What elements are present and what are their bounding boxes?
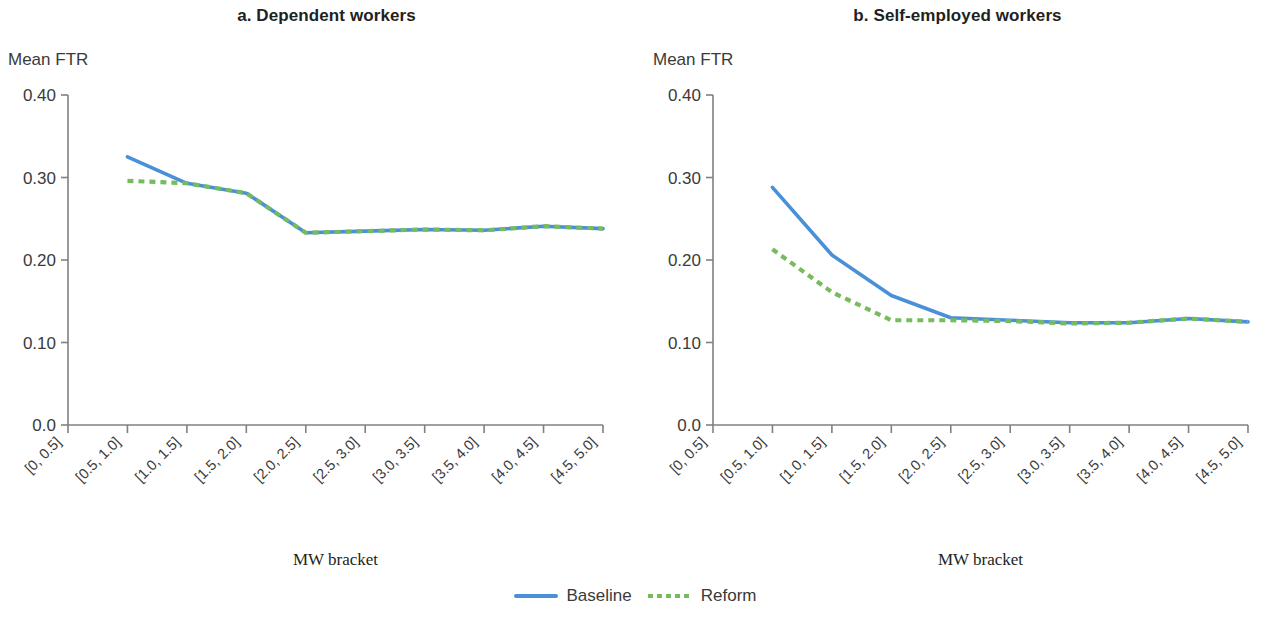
y-tick-label: 0.40 bbox=[23, 86, 56, 105]
y-tick-label: 0.0 bbox=[32, 416, 56, 435]
x-tick-label: [4.0, 4.5] bbox=[1133, 434, 1184, 485]
y-tick-label: 0.20 bbox=[23, 251, 56, 270]
panel-b-plot: 0.00.100.200.300.40[0, 0.5][0.5, 1.0][1.… bbox=[635, 0, 1270, 580]
series-line-reform bbox=[772, 249, 1248, 323]
x-tick-label: [1.5, 2.0] bbox=[836, 434, 887, 485]
x-tick-label: [2.5, 3.0] bbox=[310, 434, 361, 485]
x-tick-label: [4.0, 4.5] bbox=[488, 434, 539, 485]
series-line-reform bbox=[127, 181, 603, 233]
y-tick-label: 0.30 bbox=[23, 169, 56, 188]
figure-two-panel-line-charts: a. Dependent workers Mean FTR 0.00.100.2… bbox=[0, 0, 1270, 623]
y-tick-label: 0.10 bbox=[668, 334, 701, 353]
x-tick-label: [4.5, 5.0] bbox=[548, 434, 599, 485]
x-tick-label: [2.0, 2.5] bbox=[251, 434, 302, 485]
x-axis-title: MW bracket bbox=[938, 550, 1023, 569]
chart-legend: Baseline Reform bbox=[0, 586, 1270, 606]
x-tick-label: [2.0, 2.5] bbox=[896, 434, 947, 485]
series-line-baseline bbox=[127, 157, 603, 233]
legend-item-reform: Reform bbox=[648, 586, 757, 606]
legend-label-baseline: Baseline bbox=[567, 586, 632, 606]
y-tick-label: 0.40 bbox=[668, 86, 701, 105]
x-tick-label: [0, 0.5] bbox=[21, 434, 64, 477]
x-tick-label: [1.0, 1.5] bbox=[777, 434, 828, 485]
x-tick-label: [1.5, 2.0] bbox=[191, 434, 242, 485]
series-line-baseline bbox=[772, 187, 1248, 322]
x-tick-label: [0, 0.5] bbox=[666, 434, 709, 477]
x-tick-label: [3.5, 4.0] bbox=[429, 434, 480, 485]
legend-swatch-reform bbox=[648, 594, 692, 598]
x-tick-label: [2.5, 3.0] bbox=[955, 434, 1006, 485]
x-tick-label: [4.5, 5.0] bbox=[1193, 434, 1244, 485]
x-axis-title: MW bracket bbox=[293, 550, 378, 569]
legend-swatch-baseline bbox=[514, 594, 558, 598]
x-tick-label: [1.0, 1.5] bbox=[132, 434, 183, 485]
x-tick-label: [3.0, 3.5] bbox=[370, 434, 421, 485]
legend-label-reform: Reform bbox=[701, 586, 757, 606]
x-tick-label: [3.5, 4.0] bbox=[1074, 434, 1125, 485]
legend-item-baseline: Baseline bbox=[514, 586, 632, 606]
y-tick-label: 0.30 bbox=[668, 169, 701, 188]
x-tick-label: [0.5, 1.0] bbox=[717, 434, 768, 485]
y-tick-label: 0.10 bbox=[23, 334, 56, 353]
x-tick-label: [0.5, 1.0] bbox=[72, 434, 123, 485]
y-tick-label: 0.20 bbox=[668, 251, 701, 270]
panel-dependent-workers: a. Dependent workers Mean FTR 0.00.100.2… bbox=[0, 0, 635, 580]
panel-self-employed-workers: b. Self-employed workers Mean FTR 0.00.1… bbox=[635, 0, 1270, 580]
x-tick-label: [3.0, 3.5] bbox=[1015, 434, 1066, 485]
y-tick-label: 0.0 bbox=[677, 416, 701, 435]
panel-a-plot: 0.00.100.200.300.40[0, 0.5][0.5, 1.0][1.… bbox=[0, 0, 635, 580]
